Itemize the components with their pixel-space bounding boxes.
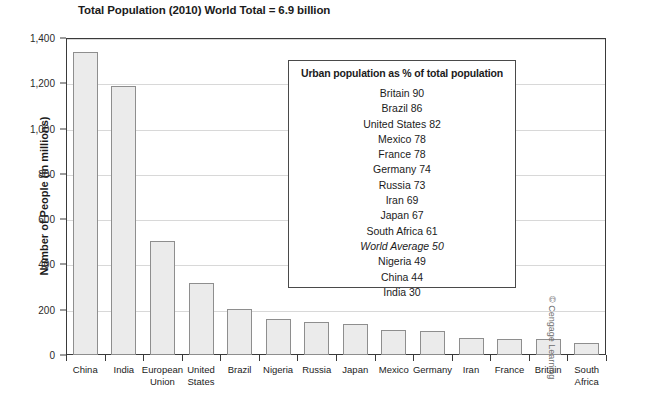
- inset-row: Britain 90: [289, 86, 515, 101]
- y-tick-label-1200: 1,200: [0, 78, 55, 89]
- bar-south-africa: [574, 343, 599, 355]
- inset-row: South Africa 61: [289, 224, 515, 239]
- x-tick-mark-0: [66, 355, 67, 361]
- x-tick-mark-11: [490, 355, 491, 361]
- x-label-south-africa: South Africa: [561, 364, 612, 387]
- bar-brazil: [227, 309, 252, 355]
- inset-row: United States 82: [289, 117, 515, 132]
- x-tick-mark-7: [336, 355, 337, 361]
- bar-germany: [420, 331, 445, 355]
- x-tick-mark-2: [143, 355, 144, 361]
- inset-row: Nigeria 49: [289, 254, 515, 269]
- x-tick-mark-13: [567, 355, 568, 361]
- inset-title: Urban population as % of total populatio…: [289, 67, 515, 79]
- x-tick-mark-6: [297, 355, 298, 361]
- bar-united-states: [189, 283, 214, 355]
- x-tick-mark-12: [529, 355, 530, 361]
- x-tick-mark-5: [259, 355, 260, 361]
- x-tick-mark-14: [606, 355, 607, 361]
- bar-russia: [304, 322, 329, 355]
- inset-row: France 78: [289, 147, 515, 162]
- chart-title: Total Population (2010) World Total = 6.…: [78, 4, 330, 16]
- population-bar-chart-figure: Total Population (2010) World Total = 6.…: [0, 0, 651, 412]
- bar-india: [111, 86, 136, 355]
- y-tick-label-0: 0: [0, 350, 55, 361]
- x-tick-mark-3: [182, 355, 183, 361]
- y-axis-title: Number of People (in millions): [38, 66, 50, 326]
- inset-row: Russia 73: [289, 178, 515, 193]
- x-tick-mark-10: [452, 355, 453, 361]
- inset-row: Japan 67: [289, 208, 515, 223]
- urban-population-inset: Urban population as % of total populatio…: [288, 60, 516, 288]
- copyright-credit: © Cengage Learning: [547, 296, 557, 412]
- inset-row: China 44: [289, 270, 515, 285]
- inset-row: Brazil 86: [289, 101, 515, 116]
- bar-nigeria: [266, 319, 291, 355]
- x-tick-mark-9: [413, 355, 414, 361]
- y-tick-label-600: 600: [0, 214, 55, 225]
- bar-japan: [343, 324, 368, 355]
- inset-row: Germany 74: [289, 162, 515, 177]
- y-tick-label-1000: 1,000: [0, 123, 55, 134]
- y-tick-label-1400: 1,400: [0, 33, 55, 44]
- inset-row-list: Britain 90Brazil 86United States 82Mexic…: [289, 86, 515, 300]
- bar-iran: [459, 338, 484, 355]
- inset-row: World Average 50: [289, 239, 515, 254]
- bar-china: [73, 52, 98, 355]
- bar-mexico: [381, 330, 406, 355]
- x-tick-mark-8: [375, 355, 376, 361]
- inset-row: India 30: [289, 285, 515, 300]
- x-tick-mark-4: [220, 355, 221, 361]
- y-tick-label-200: 200: [0, 304, 55, 315]
- bar-france: [497, 339, 522, 355]
- inset-row: Iran 69: [289, 193, 515, 208]
- x-tick-mark-1: [105, 355, 106, 361]
- y-tick-label-400: 400: [0, 259, 55, 270]
- inset-row: Mexico 78: [289, 132, 515, 147]
- y-tick-label-800: 800: [0, 168, 55, 179]
- bar-european-union: [150, 241, 175, 355]
